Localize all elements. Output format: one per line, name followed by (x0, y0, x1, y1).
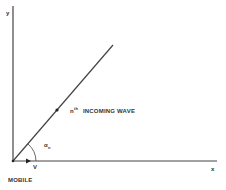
origin-label: MOBILE (8, 177, 33, 183)
wave-index-suffix: th (74, 106, 78, 111)
x-axis-label: x (211, 166, 215, 172)
angle-subscript: n (48, 145, 51, 150)
y-axis-label: y (6, 10, 10, 16)
velocity-arrow-icon (26, 159, 31, 164)
velocity-label: V (33, 164, 37, 170)
angle-label: αn (44, 142, 51, 150)
wave-point (55, 108, 58, 111)
incoming-wave-line (13, 45, 113, 161)
diagram-canvas (0, 0, 226, 190)
wave-label: nth INCOMING WAVE (70, 106, 135, 114)
wave-text: INCOMING WAVE (83, 108, 135, 114)
angle-arc (28, 144, 36, 161)
origin-point (12, 160, 15, 163)
